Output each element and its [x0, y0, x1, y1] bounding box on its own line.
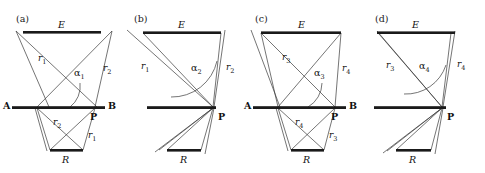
bar-R — [291, 149, 324, 152]
bar-label-E: E — [298, 20, 305, 30]
point-label-P: P — [331, 112, 338, 122]
bar-R — [396, 149, 431, 152]
bar-E — [143, 31, 221, 34]
panel-d-drawing — [363, 0, 484, 173]
ray-label-r2-upper: r2 — [226, 63, 234, 74]
bar-label-E: E — [412, 20, 419, 30]
angle-label-alpha3: α3 — [314, 68, 325, 80]
panel-a: (a) E A B P R r1 r2 r2 r1 α1 — [0, 0, 121, 173]
ray-label-r4-lower: r4 — [295, 118, 303, 129]
bar-label-E: E — [58, 20, 65, 30]
ray-label-r4-upper: r4 — [457, 60, 465, 71]
bar-AB — [253, 106, 346, 109]
ray-label-r4-upper: r4 — [342, 64, 350, 75]
bar-label-R: R — [180, 155, 187, 165]
bar-E — [23, 31, 101, 34]
point-label-P: P — [447, 112, 454, 122]
angle-label-alpha1: α1 — [74, 68, 85, 80]
bar-AB — [147, 106, 216, 109]
bar-label-R: R — [303, 155, 310, 165]
ray-label-r3-upper: r3 — [386, 61, 394, 72]
panel-caption-b: (b) — [134, 13, 148, 24]
bar-label-B: B — [108, 101, 116, 111]
panel-caption-c: (c) — [255, 13, 268, 24]
panel-d: (d) E P R r3 r4 α4 — [363, 0, 484, 173]
bar-R — [50, 149, 83, 152]
panel-b: (b) E P R r1 r2 α2 — [121, 0, 242, 173]
angle-label-alpha2: α2 — [191, 63, 202, 75]
bar-AB — [12, 106, 105, 109]
bar-label-A: A — [244, 101, 251, 111]
ray-label-r2-lower: r2 — [53, 118, 61, 129]
bar-label-A: A — [3, 101, 10, 111]
ray-label-r2-upper: r2 — [103, 64, 111, 75]
bar-E — [261, 31, 341, 34]
ray-label-r1-lower: r1 — [88, 131, 96, 142]
point-label-P: P — [90, 112, 97, 122]
panel-caption-a: (a) — [16, 13, 29, 24]
panel-c: (c) E A B P R r3 r4 r4 r3 α3 — [242, 0, 363, 173]
bar-label-B: B — [349, 101, 357, 111]
angle-label-alpha4: α4 — [419, 61, 430, 73]
ray-label-r3-upper: r3 — [282, 53, 290, 64]
bar-label-R: R — [409, 155, 416, 165]
bar-label-E: E — [178, 20, 185, 30]
point-label-P: P — [218, 112, 225, 122]
bar-AB — [374, 106, 446, 109]
ray-label-r3-lower: r3 — [329, 131, 337, 142]
bar-E — [377, 31, 455, 34]
bar-label-R: R — [62, 155, 69, 165]
figure-canvas: (a) E A B P R r1 r2 r2 r1 α1 — [0, 0, 485, 173]
panel-caption-d: (d) — [375, 13, 389, 24]
bar-R — [167, 149, 201, 152]
ray-label-r1-upper: r1 — [38, 54, 46, 65]
ray-label-r1-upper: r1 — [141, 62, 149, 73]
